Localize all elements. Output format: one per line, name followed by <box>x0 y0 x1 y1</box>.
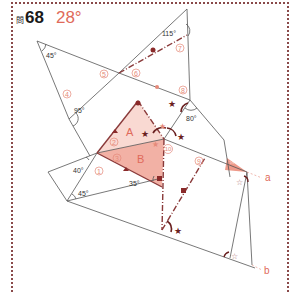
angle-label-115: 115° <box>162 30 176 37</box>
circled-number-10: 10 <box>164 145 173 154</box>
line-left-lower <box>69 119 90 156</box>
dot-marker-A <box>136 101 141 106</box>
circled-number-4: 4 <box>63 90 71 98</box>
star-marker-right: ★ <box>177 132 185 142</box>
svg-text:10: 10 <box>165 146 172 152</box>
circled-number-5: 5 <box>100 70 108 78</box>
star-marker-answer: ☆ <box>229 158 235 165</box>
angle-label-80: 80° <box>186 115 197 122</box>
angle-label-40: 40° <box>73 167 84 174</box>
circled-number-8: 8 <box>179 86 187 94</box>
angle-label-35: 35° <box>129 180 140 187</box>
line-b <box>67 201 255 268</box>
svg-text:2: 2 <box>112 139 116 146</box>
dashed-9 <box>162 158 205 230</box>
svg-text:3: 3 <box>115 155 119 162</box>
circled-number-1: 1 <box>95 167 103 175</box>
svg-text:5: 5 <box>102 71 106 78</box>
dot-marker-8 <box>155 85 159 89</box>
hollow-star-a: ☆ <box>236 178 243 187</box>
star-marker-A: ★ <box>141 129 149 139</box>
circled-number-7: 7 <box>176 44 184 52</box>
star-marker-bottom: ★ <box>174 226 182 236</box>
arc-40 <box>86 157 89 160</box>
star-marker-pink-top: ★ <box>159 122 166 131</box>
svg-text:7: 7 <box>178 45 182 52</box>
arc-45-bottom <box>72 194 76 199</box>
hollow-star-b: ☆ <box>231 252 238 261</box>
circled-number-9: 9 <box>195 157 203 165</box>
line-a <box>164 139 247 172</box>
line-label-b: b <box>264 265 270 276</box>
svg-text:1: 1 <box>97 168 101 175</box>
star-marker-8: ★ <box>168 99 176 109</box>
region-label-A: A <box>126 126 134 138</box>
circled-number-6: 6 <box>132 69 140 77</box>
svg-text:8: 8 <box>181 87 185 94</box>
angle-label-45-top: 45° <box>46 52 57 59</box>
region-label-B: B <box>137 153 144 165</box>
svg-text:4: 4 <box>65 91 69 98</box>
square-marker-2 <box>181 188 186 193</box>
arc-hollow-b <box>224 252 229 257</box>
star-marker-pink-B: ★ <box>152 140 159 149</box>
line-label-a: a <box>265 172 271 183</box>
square-marker-1 <box>157 176 162 181</box>
arc-45-top <box>42 44 46 51</box>
line-5-8 <box>119 73 190 100</box>
arc-star-bottom <box>167 221 171 232</box>
svg-text:9: 9 <box>197 158 201 165</box>
dot-marker-top <box>151 48 156 53</box>
line-a-ext <box>247 172 262 178</box>
svg-text:6: 6 <box>134 70 138 77</box>
angle-label-95: 95° <box>74 107 85 114</box>
line-a-b-right <box>247 172 252 265</box>
line-115-down <box>187 9 190 100</box>
angle-label-45-bottom: 45° <box>78 190 89 197</box>
line-40-left <box>48 172 67 201</box>
arc-80 <box>185 108 197 110</box>
